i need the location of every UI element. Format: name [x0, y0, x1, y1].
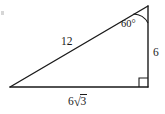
angle-label-60-degrees: 60° — [121, 19, 136, 30]
hypotenuse-label: 12 — [61, 36, 73, 48]
base-label: 6√3 — [68, 94, 87, 108]
vertical-leg-label: 6 — [153, 47, 159, 59]
base-expression: 6√3 — [68, 94, 87, 108]
scan-artifact — [1, 11, 4, 15]
base-radicand: 3 — [80, 94, 87, 107]
right-triangle-figure: 12 6 60° 6√3 — [0, 0, 165, 114]
right-angle-marker — [139, 78, 148, 87]
